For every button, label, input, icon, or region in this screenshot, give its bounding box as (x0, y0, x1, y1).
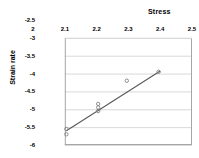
data-point-marker (96, 106, 99, 109)
trend-line-segment (66, 71, 160, 131)
plot-area (0, 0, 199, 158)
chart-container: Stress Strain rate -2.5-3-3.5-4-4.5-5-5.… (0, 0, 199, 158)
trend-line (66, 71, 160, 131)
data-point-marker (125, 79, 128, 82)
data-point-marker (96, 102, 99, 105)
